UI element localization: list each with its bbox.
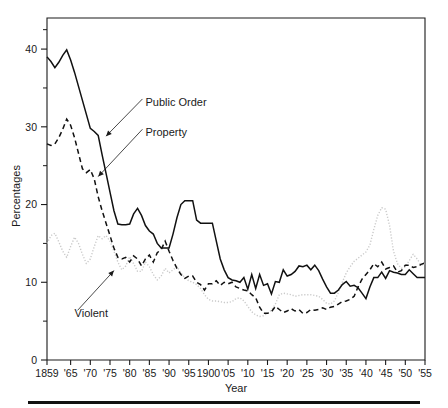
- footer-rule: [28, 401, 420, 404]
- chart-figure: 010203040 1859'65'70'75'80'85'90'951900'…: [0, 0, 448, 408]
- x-ticklabel: '40: [359, 367, 373, 379]
- x-ticklabel: '85: [143, 367, 157, 379]
- x-ticklabel: '35: [339, 367, 353, 379]
- x-ticklabel: '65: [64, 367, 78, 379]
- x-axis-title: Year: [225, 382, 248, 394]
- x-ticklabel: '50: [398, 367, 412, 379]
- series-label-property: Property: [145, 126, 187, 138]
- x-ticklabel: '95: [182, 367, 196, 379]
- x-ticklabel: '10: [241, 367, 255, 379]
- y-ticklabel: 30: [25, 121, 37, 133]
- x-ticklabel: '45: [379, 367, 393, 379]
- y-ticklabel: 20: [25, 198, 37, 210]
- y-axis-title: Percentages: [10, 165, 22, 227]
- x-ticklabel: '70: [83, 367, 97, 379]
- x-ticklabel: '15: [261, 367, 275, 379]
- series-label-public-order: Public Order: [145, 96, 206, 108]
- x-ticklabel: 1900: [197, 367, 221, 379]
- x-ticklabel: '55: [418, 367, 432, 379]
- x-ticklabel: '30: [320, 367, 334, 379]
- x-ticklabel: 1859: [35, 367, 59, 379]
- x-ticklabel: '25: [300, 367, 314, 379]
- x-ticklabel: '20: [280, 367, 294, 379]
- x-ticklabel: '75: [103, 367, 117, 379]
- y-ticklabel: 10: [25, 276, 37, 288]
- series-label-violent: Violent: [75, 307, 108, 319]
- x-ticklabel: '80: [123, 367, 137, 379]
- line-chart: 010203040 1859'65'70'75'80'85'90'951900'…: [0, 0, 448, 408]
- chart-background: [0, 0, 448, 408]
- x-ticklabel: '90: [162, 367, 176, 379]
- x-ticklabel: '05: [221, 367, 235, 379]
- x-axis-ticklabels: 1859'65'70'75'80'85'90'951900'05'10'15'2…: [35, 367, 432, 379]
- y-ticklabel: 40: [25, 43, 37, 55]
- y-ticklabel: 0: [31, 354, 37, 366]
